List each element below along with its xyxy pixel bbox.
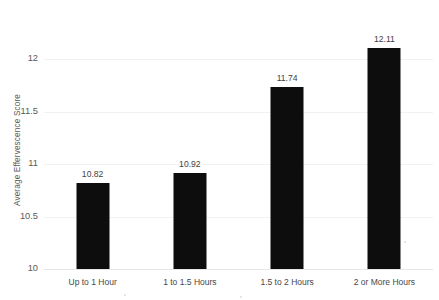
x-tick-label: Up to 1 Hour: [44, 278, 141, 287]
bar-value-label: 11.74: [277, 74, 298, 83]
gridline: [44, 269, 433, 270]
scan-artifact: [124, 294, 126, 296]
scan-artifact: [240, 296, 242, 298]
y-tick-label: 12: [0, 55, 38, 64]
x-tick-label: 1 to 1.5 Hours: [141, 278, 238, 287]
bar-group: 11.74: [239, 33, 336, 269]
plot-area: 10.8210.9211.7412.11: [44, 33, 433, 269]
y-tick-label: 11.5: [0, 107, 38, 116]
bar[interactable]: [271, 87, 304, 270]
x-axis-tick-labels: Up to 1 Hour1 to 1.5 Hours1.5 to 2 Hours…: [44, 272, 433, 292]
y-tick-label: 11: [0, 159, 38, 168]
bar-group: 12.11: [336, 33, 433, 269]
bar-value-label: 12.11: [374, 35, 395, 44]
bar[interactable]: [368, 48, 401, 269]
x-tick-label: 2 or More Hours: [336, 278, 433, 287]
bar[interactable]: [76, 183, 109, 269]
y-axis-tick-labels: 1010.51111.512: [0, 33, 38, 269]
bar-group: 10.82: [44, 33, 141, 269]
x-tick-label: 1.5 to 2 Hours: [239, 278, 336, 287]
bar-group: 10.92: [141, 33, 238, 269]
bar-value-label: 10.82: [82, 170, 104, 179]
scan-artifact: [404, 241, 406, 243]
y-tick-label: 10: [0, 264, 38, 273]
bar-value-label: 10.92: [179, 160, 201, 169]
bar-chart: Average Effervescence Score 1010.51111.5…: [0, 0, 439, 300]
y-tick-label: 10.5: [0, 212, 38, 221]
bar[interactable]: [173, 173, 206, 269]
